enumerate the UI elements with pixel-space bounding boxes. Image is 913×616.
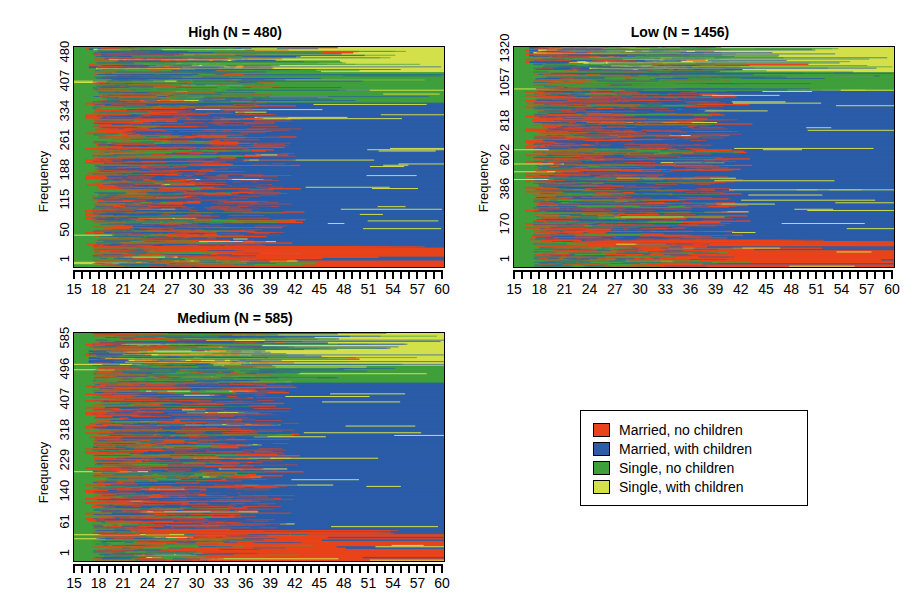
x-tick-mark xyxy=(597,270,599,279)
sequence-index-canvas-high xyxy=(74,47,444,267)
x-tick-label: 51 xyxy=(361,281,377,297)
x-tick-label: 30 xyxy=(189,281,205,297)
y-tick-label: 480 xyxy=(57,43,72,63)
legend-label-single_with_children: Single, with children xyxy=(619,479,744,495)
x-tick-mark xyxy=(228,564,230,573)
x-tick-label: 45 xyxy=(758,281,774,297)
x-tick-mark xyxy=(179,564,181,573)
x-tick-label: 27 xyxy=(164,281,180,297)
y-axis-ticks-low: 117038660281810571320 xyxy=(494,46,514,266)
x-tick-mark xyxy=(857,270,859,279)
x-tick-mark xyxy=(425,564,427,573)
panel-high: High (N = 480) Frequency 150115188261334… xyxy=(20,24,450,309)
x-tick-mark xyxy=(555,270,557,279)
x-tick-mark xyxy=(757,270,759,279)
x-tick-mark xyxy=(639,270,641,279)
x-tick-label: 39 xyxy=(262,575,278,591)
x-tick-mark xyxy=(163,270,165,279)
sequence-index-canvas-low xyxy=(514,47,894,267)
legend-swatch-single_no_children xyxy=(593,461,610,475)
x-tick-label: 33 xyxy=(213,575,229,591)
x-tick-mark xyxy=(73,564,75,573)
x-tick-mark xyxy=(89,270,91,279)
legend: Married, no childrenMarried, with childr… xyxy=(580,410,808,506)
x-tick-mark xyxy=(196,270,198,279)
y-tick-label: 818 xyxy=(497,111,512,131)
x-tick-mark xyxy=(106,564,108,573)
x-tick-mark xyxy=(327,564,329,573)
x-tick-mark xyxy=(513,270,515,279)
x-tick-label: 57 xyxy=(859,281,875,297)
x-tick-mark xyxy=(196,564,198,573)
x-tick-mark xyxy=(416,564,418,573)
x-tick-mark xyxy=(171,564,173,573)
x-axis-low: 15182124273033363942454851545760 xyxy=(513,270,893,300)
x-tick-mark xyxy=(572,270,574,279)
x-tick-mark xyxy=(416,270,418,279)
x-tick-label: 54 xyxy=(385,575,401,591)
x-tick-label: 21 xyxy=(115,575,131,591)
x-tick-mark xyxy=(773,270,775,279)
x-tick-label: 60 xyxy=(434,281,450,297)
x-tick-mark xyxy=(343,270,345,279)
y-tick-label: 1057 xyxy=(497,77,512,97)
x-tick-mark xyxy=(351,564,353,573)
y-tick-label: 140 xyxy=(57,481,72,501)
x-tick-label: 60 xyxy=(884,281,900,297)
x-tick-label: 30 xyxy=(189,575,205,591)
x-tick-label: 54 xyxy=(834,281,850,297)
x-tick-mark xyxy=(81,270,83,279)
x-axis-high: 15182124273033363942454851545760 xyxy=(73,270,443,300)
x-tick-mark xyxy=(237,270,239,279)
x-tick-mark xyxy=(335,564,337,573)
x-tick-mark xyxy=(204,564,206,573)
y-tick-label: 1 xyxy=(497,249,512,269)
x-tick-mark xyxy=(335,270,337,279)
x-tick-mark xyxy=(204,270,206,279)
x-tick-mark xyxy=(433,564,435,573)
x-tick-mark xyxy=(261,270,263,279)
x-tick-label: 36 xyxy=(238,281,254,297)
panel-title-high: High (N = 480) xyxy=(20,24,450,40)
panel-title-medium: Medium (N = 585) xyxy=(20,310,450,326)
x-tick-mark xyxy=(318,270,320,279)
x-tick-mark xyxy=(359,270,361,279)
y-tick-label: 50 xyxy=(57,219,72,239)
x-tick-mark xyxy=(220,270,222,279)
x-tick-label: 42 xyxy=(287,575,303,591)
x-tick-label: 42 xyxy=(733,281,749,297)
x-tick-mark xyxy=(179,270,181,279)
x-tick-mark xyxy=(245,270,247,279)
x-tick-mark xyxy=(269,270,271,279)
x-tick-mark xyxy=(689,270,691,279)
x-tick-label: 24 xyxy=(582,281,598,297)
x-tick-mark xyxy=(286,270,288,279)
x-tick-mark xyxy=(245,564,247,573)
x-tick-label: 51 xyxy=(361,575,377,591)
x-tick-mark xyxy=(408,564,410,573)
x-tick-mark xyxy=(883,270,885,279)
x-tick-mark xyxy=(130,270,132,279)
x-tick-mark xyxy=(147,564,149,573)
x-tick-mark xyxy=(228,270,230,279)
x-tick-mark xyxy=(521,270,523,279)
x-tick-mark xyxy=(589,270,591,279)
x-tick-mark xyxy=(294,564,296,573)
y-tick-label: 261 xyxy=(57,131,72,151)
y-tick-label: 496 xyxy=(57,359,72,379)
x-tick-mark xyxy=(580,270,582,279)
plot-area-medium xyxy=(73,332,445,562)
x-tick-mark xyxy=(220,564,222,573)
x-tick-label: 60 xyxy=(434,575,450,591)
x-tick-label: 21 xyxy=(115,281,131,297)
y-axis-ticks-medium: 161140229318407496585 xyxy=(54,332,74,560)
x-tick-label: 18 xyxy=(531,281,547,297)
y-tick-label: 170 xyxy=(497,214,512,234)
x-tick-mark xyxy=(138,270,140,279)
x-tick-mark xyxy=(698,270,700,279)
x-tick-mark xyxy=(538,270,540,279)
x-tick-mark xyxy=(605,270,607,279)
panel-medium: Medium (N = 585) Frequency 1611402293184… xyxy=(20,310,450,600)
x-tick-mark xyxy=(530,270,532,279)
y-tick-label: 407 xyxy=(57,390,72,410)
